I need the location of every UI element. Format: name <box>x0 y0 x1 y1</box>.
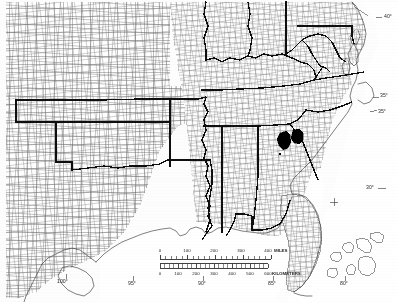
scale-miles-tick-400: 400 <box>264 248 271 253</box>
scale-bar: 0 100 200 300 400 MILES <box>158 248 290 274</box>
latitude-label-40: 40° <box>384 13 392 19</box>
scale-km-tick-300: 300 <box>210 271 217 276</box>
scale-kilometers-numbers: 0 100 200 300 400 500 600 KILOMETERS <box>158 271 290 277</box>
scale-km-tick-500: 500 <box>246 271 253 276</box>
scale-miles-unit-label: MILES <box>274 248 287 253</box>
longitude-label-80: 80° <box>340 280 348 286</box>
scale-miles-ruler <box>158 254 290 261</box>
longitude-label-95: 95° <box>128 280 136 286</box>
latitude-label-30: 30° <box>366 184 374 190</box>
scale-km-tick-200: 200 <box>192 271 199 276</box>
scale-miles-numbers: 0 100 200 300 400 MILES <box>158 248 290 254</box>
scale-km-tick-600: 600 <box>264 271 271 276</box>
highlight-point-record <box>279 153 281 155</box>
scale-miles-tick-100: 100 <box>183 248 190 253</box>
scale-miles-tick-200: 200 <box>210 248 217 253</box>
scale-kilometers-ruler <box>158 263 290 270</box>
longitude-label-90: 90° <box>198 280 206 286</box>
scale-kilometers-unit-label: KILOMETERS <box>272 271 301 276</box>
scale-miles-tick-0: 0 <box>159 248 161 253</box>
scale-km-tick-0: 0 <box>159 271 161 276</box>
longitude-label-100: 100° <box>57 278 68 284</box>
scale-km-tick-400: 400 <box>228 271 235 276</box>
longitude-label-85: 85° <box>268 280 276 286</box>
map-figure: 40° 35° 35° 30° 100° 95° 90° 85° 80° 0 1… <box>0 0 397 302</box>
latitude-label-35: 35° <box>380 92 388 98</box>
latitude-label-35-lower: 35° <box>378 108 386 114</box>
scale-miles-tick-300: 300 <box>237 248 244 253</box>
scale-km-tick-100: 100 <box>174 271 181 276</box>
